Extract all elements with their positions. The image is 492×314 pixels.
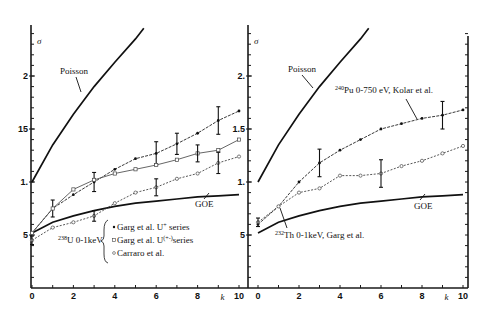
x-tick-label: 4 [112, 291, 117, 301]
legend-group-label: 238U 0-1keV [58, 235, 103, 245]
data-point-circle [359, 174, 362, 177]
data-point-circle [51, 226, 54, 229]
legend-marker-filled-dot [113, 226, 115, 228]
y-tick-label: 1. [237, 177, 245, 187]
x-axis-label: k [220, 292, 225, 302]
x-tick-label: 10 [234, 291, 244, 301]
data-point-filled [380, 128, 383, 131]
th-leader [280, 208, 287, 228]
poisson-curve [32, 28, 144, 182]
y-tick-label: 5 [240, 230, 245, 240]
right-panel: 51.1.52.σ0246810kPoisson240Pu 0-750 eV, … [232, 25, 468, 302]
y-tick-label: 1.5 [232, 124, 245, 134]
x-tick-label: 6 [154, 291, 159, 301]
data-point-square [217, 149, 220, 152]
x-tick-label: 0 [29, 291, 34, 301]
legend-brace [101, 220, 108, 263]
data-point-square [237, 138, 240, 141]
data-point-filled [113, 168, 116, 171]
data-point-circle [338, 174, 341, 177]
poisson-label: Poisson [288, 64, 317, 74]
data-point-filled [421, 117, 424, 120]
data-point-circle [113, 202, 116, 205]
data-point-circle [297, 191, 300, 194]
x-tick-label: 10 [458, 291, 468, 301]
legend-entry-u-plus-minus: Garg et al. U(+-)series [117, 235, 194, 245]
spectral-rigidity-charts: 51.152σ0246810kPoissonGOE238U 0-1keVGarg… [0, 0, 492, 314]
data-point-square [72, 188, 75, 191]
poisson-leader [302, 75, 313, 88]
y-tick-label: 2 [23, 71, 28, 81]
data-point-filled [134, 157, 137, 160]
data-point-square [175, 158, 178, 161]
y-tick-label: 15 [18, 124, 28, 134]
data-point-circle [318, 187, 321, 190]
data-point-circle [196, 172, 199, 175]
poisson-label: Poisson [60, 66, 89, 76]
th-series-label: 232Th 0-1keV, Garg et al. [275, 230, 364, 240]
data-point-circle [400, 165, 403, 168]
y-axis-label: σ [37, 36, 42, 46]
data-point-filled [462, 109, 465, 112]
data-point-circle [441, 152, 444, 155]
data-point-square [93, 178, 96, 181]
y-tick-label: 5 [23, 230, 28, 240]
legend-marker-square [113, 239, 116, 242]
left-panel: 51.152σ0246810kPoissonGOE238U 0-1keVGarg… [18, 25, 248, 302]
legend-marker-circle [113, 252, 116, 255]
x-tick-label: 2 [71, 291, 76, 301]
data-point-filled [196, 132, 199, 135]
data-point-circle [420, 159, 423, 162]
poisson-leader [76, 77, 81, 92]
data-point-filled [238, 110, 241, 113]
data-point-circle [461, 144, 464, 147]
data-point-filled [400, 122, 403, 125]
data-point-square [113, 172, 116, 175]
data-point-filled [339, 149, 342, 152]
data-point-square [30, 231, 33, 234]
poisson-curve [258, 28, 369, 182]
x-tick-label: 8 [419, 291, 424, 301]
x-tick-label: 0 [255, 291, 260, 301]
goe-label: GOE [414, 201, 433, 211]
x-tick-label: 2 [296, 291, 301, 301]
data-point-circle [237, 155, 240, 158]
data-point-filled [72, 193, 75, 196]
x-tick-label: 4 [337, 291, 342, 301]
data-point-circle [277, 205, 280, 208]
data-point-filled [298, 181, 301, 184]
pu-leader [406, 99, 417, 119]
x-axis-label: k [445, 292, 450, 302]
data-point-circle [72, 221, 75, 224]
x-tick-label: 6 [378, 291, 383, 301]
y-tick-label: 2. [237, 71, 245, 81]
pu-series-label: 240Pu 0-750 eV, Kolar et al. [335, 85, 433, 95]
data-point-filled [359, 138, 362, 141]
legend-entry-carraro: Carraro et al. [117, 248, 164, 258]
data-point-circle [175, 177, 178, 180]
data-point-square [134, 168, 137, 171]
data-point-square [51, 207, 54, 210]
x-tick-label: 8 [195, 291, 200, 301]
data-point-circle [134, 191, 137, 194]
legend-entry-u-plus: Garg et al. U+ series [117, 222, 190, 232]
y-tick-label: 1. [20, 177, 28, 187]
data-point-square [155, 163, 158, 166]
y-axis-label: σ [254, 36, 259, 46]
goe-label: GOE [195, 199, 214, 209]
